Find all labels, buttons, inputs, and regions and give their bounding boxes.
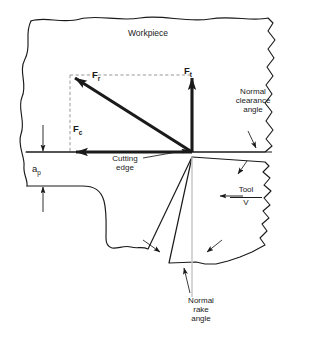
thrust-force-label: Ft <box>184 66 192 78</box>
machined-surface <box>27 186 148 249</box>
workpiece-outline <box>20 17 275 249</box>
normal-rake-line2: rake <box>193 305 209 314</box>
reference-lines <box>26 152 272 297</box>
tool-body <box>148 157 271 264</box>
clearance-angle-inner-leader <box>238 161 247 174</box>
cutting-force-subscript: c <box>79 129 83 136</box>
normal-rake-angle-annotation: Normalrakeangle <box>171 297 231 324</box>
cutting-force-diagram: Workpiece Fr Ft Fc ap Cuttingedge Normal… <box>0 0 312 341</box>
normal-clearance-line1: Normal <box>240 87 266 96</box>
resultant-force-label: Fr <box>92 70 100 82</box>
diagram-canvas <box>0 0 312 341</box>
cutting-force-label: Fc <box>73 124 82 136</box>
normal-clearance-line2: clearance <box>236 96 271 105</box>
tool-rake-face <box>169 157 192 263</box>
tool-velocity-label: V <box>230 199 262 208</box>
cutting-edge-line1: Cutting <box>112 154 137 163</box>
normal-rake-angle-leader <box>184 268 190 293</box>
normal-clearance-line3: angle <box>243 105 263 114</box>
tool-label: Tool <box>230 186 262 195</box>
leader-lines <box>143 131 256 293</box>
rake-angle-right-leader <box>207 240 222 252</box>
resultant-force-subscript: r <box>98 75 101 82</box>
normal-clearance-angle-leader <box>248 131 256 148</box>
workpiece-left-torn-edge <box>20 21 31 186</box>
force-vectors <box>75 78 192 152</box>
tool-flank-face <box>148 157 192 249</box>
workpiece-label: Workpiece <box>108 29 188 39</box>
normal-clearance-angle-annotation: Normalclearanceangle <box>222 88 284 115</box>
cutting-edge-line2: edge <box>116 163 134 172</box>
resultant-force-vector <box>75 78 192 152</box>
depth-of-cut-subscript: p <box>37 169 41 176</box>
thrust-force-subscript: t <box>190 71 192 78</box>
cutting-edge-annotation: Cuttingedge <box>96 155 154 173</box>
depth-of-cut-label: ap <box>32 164 41 176</box>
normal-rake-line1: Normal <box>188 296 214 305</box>
normal-rake-line3: angle <box>191 314 211 323</box>
